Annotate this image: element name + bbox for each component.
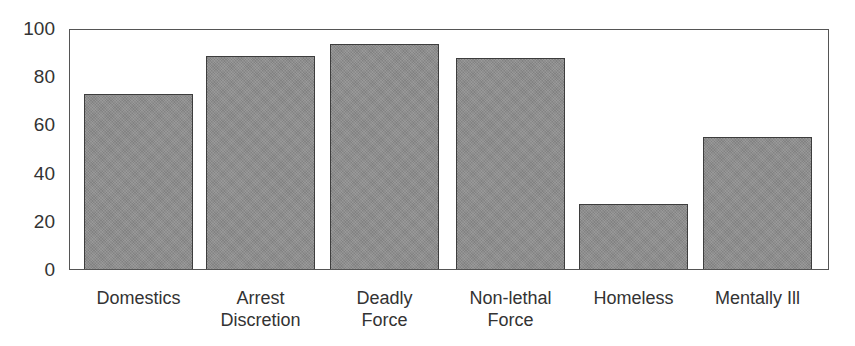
y-tick-label: 60	[5, 115, 55, 135]
x-tick-label: Non-lethal Force	[441, 287, 581, 331]
y-tick-label: 0	[5, 260, 55, 280]
plot-area	[69, 29, 829, 270]
bar-arrest-discretion	[206, 56, 315, 269]
bar-non-lethal-force	[456, 58, 565, 269]
x-tick-label: Homeless	[564, 287, 704, 309]
bar-chart: 020406080100 DomesticsArrest DiscretionD…	[0, 0, 855, 346]
bar-homeless	[579, 204, 688, 269]
y-tick-label: 20	[5, 212, 55, 232]
bar-deadly-force	[330, 44, 439, 269]
bar-domestics	[84, 94, 193, 269]
x-tick-label: Arrest Discretion	[191, 287, 331, 331]
x-tick-label: Mentally Ill	[688, 287, 828, 309]
y-tick-label: 40	[5, 164, 55, 184]
bar-mentally-ill	[703, 137, 812, 269]
x-tick-label: Domestics	[69, 287, 209, 309]
y-tick-label: 100	[5, 19, 55, 39]
y-tick-label: 80	[5, 67, 55, 87]
x-tick-label: Deadly Force	[315, 287, 455, 331]
